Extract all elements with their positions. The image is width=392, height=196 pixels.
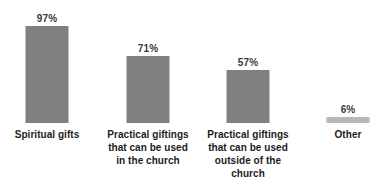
bar-wrap: 97% — [26, 26, 69, 123]
bar-practical-outside-church — [227, 70, 270, 123]
category-label-line: church — [198, 167, 298, 180]
bar-slot: 57% — [198, 0, 298, 123]
bar-group-spiritual-gifts: 97% Spiritual gifts — [0, 0, 97, 196]
category-label-line: Practical giftings — [98, 128, 198, 141]
category-label-line: outside of the — [198, 154, 298, 167]
bar-wrap: 57% — [227, 70, 270, 123]
category-label-line: Other — [298, 128, 392, 141]
bar-value-label: 57% — [238, 57, 258, 68]
bar-wrap: 71% — [127, 56, 170, 123]
bar-group-practical-outside-church: 57% Practical giftings that can be used … — [198, 0, 298, 196]
category-label-other: Other — [298, 128, 392, 141]
bar-slot: 71% — [98, 0, 198, 123]
category-label-line: in the church — [98, 154, 198, 167]
category-label-spiritual-gifts: Spiritual gifts — [0, 128, 97, 141]
bar-other — [327, 117, 370, 123]
bar-chart: 97% Spiritual gifts 71% Practical giftin… — [0, 0, 392, 196]
category-label-line: that can be used — [198, 141, 298, 154]
bar-wrap: 6% — [327, 117, 370, 123]
bar-slot: 97% — [0, 0, 97, 123]
bar-value-label: 97% — [37, 13, 57, 24]
bar-group-other: 6% Other — [298, 0, 392, 196]
bar-spiritual-gifts — [26, 26, 69, 123]
bar-value-label: 71% — [138, 43, 158, 54]
category-label-practical-in-church: Practical giftings that can be used in t… — [98, 128, 198, 167]
bar-slot: 6% — [298, 0, 392, 123]
category-label-practical-outside-church: Practical giftings that can be used outs… — [198, 128, 298, 180]
category-label-line: Practical giftings — [198, 128, 298, 141]
bar-value-label: 6% — [341, 104, 356, 115]
category-label-line: Spiritual gifts — [0, 128, 97, 141]
bar-group-practical-in-church: 71% Practical giftings that can be used … — [98, 0, 198, 196]
bar-practical-in-church — [127, 56, 170, 123]
category-label-line: that can be used — [98, 141, 198, 154]
